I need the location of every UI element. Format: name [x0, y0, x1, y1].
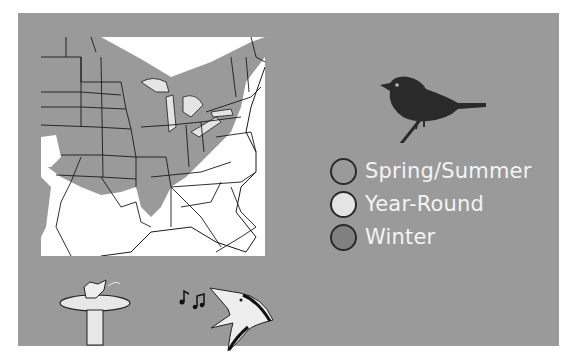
music-notes-icon [178, 288, 208, 313]
range-map [41, 37, 265, 256]
swatch-year-round [330, 191, 357, 218]
range-map-panel: Spring/Summer Year-Round Winter [18, 13, 559, 346]
birdbath-icon [58, 278, 133, 350]
legend-label: Year-Round [365, 192, 484, 216]
us-map-svg [41, 37, 265, 256]
singing-bird-icon [208, 285, 280, 353]
legend-item-year-round: Year-Round [330, 189, 532, 219]
legend-label: Spring/Summer [365, 159, 532, 183]
legend-item-spring-summer: Spring/Summer [330, 156, 532, 186]
swatch-winter [330, 224, 357, 251]
swatch-spring-summer [330, 158, 357, 185]
legend-label: Winter [365, 225, 435, 249]
legend: Spring/Summer Year-Round Winter [330, 156, 532, 255]
range-area [41, 37, 265, 217]
legend-item-winter: Winter [330, 222, 532, 252]
perched-bird-icon [358, 63, 493, 143]
